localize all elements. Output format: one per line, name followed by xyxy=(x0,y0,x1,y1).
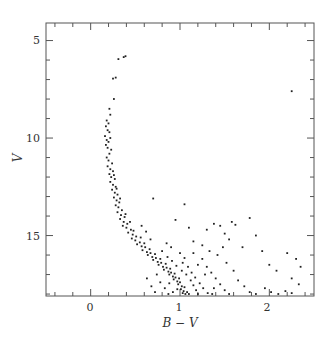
star-point xyxy=(145,231,147,233)
star-point xyxy=(130,229,132,231)
star-point xyxy=(166,267,168,269)
star-point xyxy=(261,250,263,252)
star-point xyxy=(176,281,178,283)
star-point xyxy=(199,282,201,284)
star-point xyxy=(188,293,190,295)
star-point xyxy=(139,242,141,244)
star-point xyxy=(112,184,114,186)
star-point xyxy=(140,237,142,239)
star-point xyxy=(108,123,110,125)
star-point xyxy=(249,217,251,219)
star-point xyxy=(291,278,293,280)
star-point xyxy=(107,147,109,149)
star-point xyxy=(170,272,172,274)
star-point xyxy=(187,266,189,268)
x-axis-title: B − V xyxy=(161,316,199,330)
star-point xyxy=(142,249,144,251)
star-point xyxy=(157,261,159,263)
star-point xyxy=(171,260,173,262)
star-point xyxy=(155,257,157,259)
star-point xyxy=(184,203,186,205)
star-point xyxy=(106,139,108,141)
star-point xyxy=(104,135,106,137)
star-point xyxy=(129,221,131,223)
star-point xyxy=(206,266,208,268)
star-point xyxy=(107,129,109,131)
star-point xyxy=(159,258,161,260)
star-point xyxy=(168,282,170,284)
star-point xyxy=(119,218,121,220)
star-point xyxy=(159,281,161,283)
star-point xyxy=(210,272,212,274)
star-point xyxy=(109,137,111,139)
plot-frame xyxy=(46,23,314,296)
star-point xyxy=(113,197,115,199)
star-point xyxy=(179,281,181,283)
star-point xyxy=(115,77,117,79)
star-point xyxy=(179,252,181,254)
star-point xyxy=(178,278,180,280)
star-point xyxy=(144,246,146,248)
star-point xyxy=(172,291,174,293)
star-point xyxy=(105,144,107,146)
star-point xyxy=(175,277,177,279)
star-point xyxy=(193,284,195,286)
star-point xyxy=(268,264,270,266)
star-point xyxy=(167,256,169,258)
star-point xyxy=(168,274,170,276)
star-point xyxy=(109,168,111,170)
star-point xyxy=(163,269,165,271)
star-point xyxy=(114,178,116,180)
star-point xyxy=(149,248,151,250)
y-axis-title: V xyxy=(11,152,25,162)
star-point xyxy=(173,279,175,281)
star-point xyxy=(141,225,143,227)
star-point xyxy=(118,202,120,204)
star-point xyxy=(125,55,127,57)
star-point xyxy=(255,235,257,237)
star-point xyxy=(298,283,300,285)
star-point xyxy=(134,240,136,242)
star-point xyxy=(285,290,287,292)
star-point xyxy=(105,125,107,127)
star-point xyxy=(110,149,112,151)
star-point xyxy=(224,289,226,291)
star-point xyxy=(112,78,114,80)
star-point xyxy=(146,278,148,280)
star-point xyxy=(231,221,233,223)
star-point xyxy=(286,252,288,254)
star-point xyxy=(185,293,187,295)
star-point xyxy=(300,266,302,268)
star-point xyxy=(133,230,135,232)
star-point xyxy=(181,285,183,287)
star-point xyxy=(117,211,119,213)
star-point xyxy=(249,291,251,293)
star-point xyxy=(162,266,164,268)
star-point xyxy=(108,141,110,143)
star-point xyxy=(193,252,195,254)
star-point xyxy=(109,153,111,155)
star-point xyxy=(209,250,211,252)
star-point xyxy=(106,120,108,122)
color-magnitude-diagram: 0 1 2 5 10 15 B − V V xyxy=(0,0,333,342)
star-point xyxy=(184,257,186,259)
star-point xyxy=(126,227,128,229)
star-point xyxy=(182,262,184,264)
star-point xyxy=(219,225,221,227)
star-point xyxy=(170,246,172,248)
x-tick-label-2: 2 xyxy=(264,301,271,314)
star-point xyxy=(291,90,293,92)
star-point xyxy=(166,242,168,244)
star-point xyxy=(132,234,134,236)
star-point xyxy=(109,181,111,183)
star-point xyxy=(174,273,176,275)
star-point xyxy=(168,271,170,273)
star-point xyxy=(204,274,206,276)
star-point xyxy=(141,245,143,247)
star-point xyxy=(125,213,127,215)
star-point xyxy=(136,243,138,245)
star-point xyxy=(215,278,217,280)
x-tick-label-0: 0 xyxy=(87,301,94,314)
star-point xyxy=(110,176,112,178)
star-point xyxy=(176,288,178,290)
